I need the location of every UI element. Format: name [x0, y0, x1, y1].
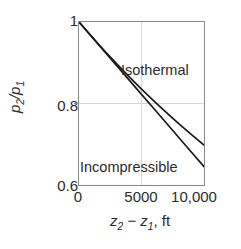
y-axis-title-subscript-2: 2: [15, 99, 26, 105]
y-axis-title: p2/p1: [6, 62, 26, 132]
y-axis-tick-label-0-8: 0.8: [57, 98, 78, 113]
x-axis-tick-label-5000: 5000: [117, 189, 165, 204]
y-axis-title-subscript-1: 1: [15, 81, 26, 87]
y-axis-title-p-numerator: p: [6, 105, 23, 113]
y-axis-tick-label-1: 1: [70, 13, 78, 28]
x-axis-title: z2 − z1, ft: [60, 212, 220, 232]
plot-area: Isothermal Incompressible: [78, 21, 205, 186]
x-axis-tick-label-0: 0: [70, 189, 86, 204]
series-annotations: Isothermal Incompressible: [79, 22, 204, 185]
y-axis-title-p-denominator: p: [6, 87, 23, 95]
series-label-isothermal: Isothermal: [121, 63, 189, 78]
x-axis-title-z-second: z: [140, 212, 148, 229]
x-axis-title-minus-sign: −: [123, 212, 140, 229]
x-axis-tick-label-10000: 10,000: [163, 189, 225, 204]
y-axis-title-slash: /: [6, 95, 23, 99]
x-axis-title-unit: , ft: [153, 212, 170, 229]
pressure-ratio-vs-elevation-chart: 1 0.8 0.6 0 5000 10,000 p2/p1 z2 − z1, f…: [0, 0, 241, 249]
series-label-incompressible: Incompressible: [80, 160, 178, 175]
